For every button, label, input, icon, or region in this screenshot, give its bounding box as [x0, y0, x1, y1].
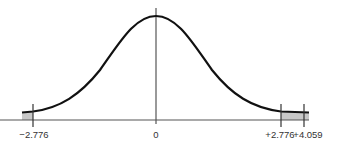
- t-distribution-chart: [0, 0, 338, 148]
- tick-label-observed: +4.059: [293, 129, 322, 140]
- tick-label-right-critical: +2.776: [265, 129, 294, 140]
- density-curve: [22, 16, 309, 113]
- tick-label-left-critical: −2.776: [19, 129, 48, 140]
- tick-label-center: 0: [153, 129, 158, 140]
